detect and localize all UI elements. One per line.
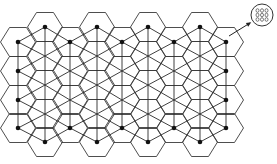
diagonal-edge [122,114,148,128]
node-dot [43,25,48,30]
node-dot [120,40,125,45]
diagonal-edge [174,85,200,100]
inset-magnifier-circle [251,4,273,26]
diagonal-edge [148,27,174,42]
diagonal-edge [18,128,45,142]
node-dot [146,140,151,145]
diagonal-edge [174,27,200,42]
diagonal-edge [97,85,122,100]
diagonal-edge [122,128,148,142]
diagonal-edge [45,100,70,114]
diagonal-edge [174,56,200,71]
diagonal-edge [70,85,97,100]
node-dot [68,40,73,45]
node-dot [224,69,229,74]
diagonal-edge [18,114,45,128]
node-dot [16,40,21,45]
node-dot [198,25,203,30]
diagonal-edge [97,114,122,128]
node-dot [68,126,73,131]
diagonal-edge [200,56,226,71]
diagonal-edge [174,42,200,56]
diagonal-edge [200,42,226,56]
diagonal-edge [45,85,70,100]
diagonal-edge [70,71,97,85]
diagonal-edge [18,71,45,85]
diagonal-edge [18,56,45,71]
diagonal-edge [148,56,174,71]
node-dot [120,126,125,131]
node-dot [224,40,229,45]
diagonal-edge [18,85,45,100]
diagonal-edge [45,114,70,128]
diagonal-edge [174,100,200,114]
arrow-line [229,23,250,36]
diagonal-edge [18,42,45,56]
diagonal-edge [148,114,174,128]
diagonal-edge [200,128,226,142]
diagonal-edge [70,100,97,114]
node-dot [146,25,151,30]
diagonal-edge [70,42,97,56]
hexagonal-network [0,0,277,164]
node-dot [43,140,48,145]
inset-callout [229,4,273,36]
node-dot [95,140,100,145]
diagonal-edge [97,71,122,85]
diagonal-edge [18,100,45,114]
diagonal-edge [45,128,70,142]
diagonal-edge [97,42,122,56]
node-dot [224,98,229,103]
diagonal-edge [70,114,97,128]
diagonal-edge [148,128,174,142]
diagonal-edge [70,27,97,42]
diagonal-edge [45,42,70,56]
diagonal-edge [174,71,200,85]
diagram-canvas: Hexagonal cell network with triangulated… [0,0,277,164]
diagonal-edge [70,128,97,142]
node-dot [95,25,100,30]
node-dot [16,98,21,103]
diagonal-edge [200,114,226,128]
diagonal-edge [122,27,148,42]
diagonal-edge [45,27,70,42]
diagonal-edge [148,85,174,100]
diagonal-edge [122,100,148,114]
arrow-head-icon [246,22,251,27]
diagonal-edge [174,128,200,142]
node-dot [198,140,203,145]
diagonal-edge [148,71,174,85]
node-dot [172,40,177,45]
diagonal-edge [70,56,97,71]
node-dot [16,126,21,131]
node-dot [16,69,21,74]
diagonal-edge [200,85,226,100]
diagonal-edge [174,114,200,128]
diagonal-edge [148,100,174,114]
diagonal-edge [122,71,148,85]
diagonal-edge [45,56,70,71]
diagonal-edge [18,27,45,42]
diagonal-edge [97,100,122,114]
diagonal-edge [148,42,174,56]
diagonal-edge [97,128,122,142]
node-dot [172,126,177,131]
diagonal-edge [200,27,226,42]
diagonal-edge [200,100,226,114]
node-dot [224,126,229,131]
diagonal-edge [122,56,148,71]
diagonal-edge [97,56,122,71]
diagonal-edge [122,85,148,100]
diagonal-edge [45,71,70,85]
diagonal-edge [200,71,226,85]
diagonal-edge [97,27,122,42]
diagonal-edge [122,42,148,56]
